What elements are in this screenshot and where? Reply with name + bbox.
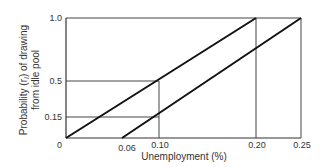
series-line-b bbox=[122, 18, 301, 138]
x-tick-0.06: 0.06 bbox=[118, 143, 136, 153]
y-axis-title-part2: ) of drawing bbox=[18, 25, 29, 77]
y-axis-title-part1: Probability (r bbox=[18, 78, 29, 135]
chart: 1.0 0.5 0.15 0 0.06 0.10 0.20 0.25 Unemp… bbox=[0, 0, 324, 167]
y-tick-0.15: 0.15 bbox=[44, 112, 62, 122]
reference-lines bbox=[66, 18, 301, 138]
y-axis-title: Probability (rI) of drawing from idle po… bbox=[18, 25, 41, 135]
axes bbox=[66, 18, 301, 138]
series-lines bbox=[66, 18, 301, 138]
x-tick-0.10: 0.10 bbox=[151, 140, 169, 150]
y-tick-1.0: 1.0 bbox=[49, 13, 62, 23]
y-axis-title-line2: from idle pool bbox=[30, 50, 41, 110]
x-axis-title: Unemployment (%) bbox=[141, 151, 227, 162]
y-tick-0.5: 0.5 bbox=[49, 76, 62, 86]
x-tick-0.25: 0.25 bbox=[293, 140, 311, 150]
series-line-a bbox=[66, 18, 256, 138]
svg-text:Probability (rI) of drawing: Probability (rI) of drawing bbox=[18, 25, 30, 135]
x-tick-0.20: 0.20 bbox=[248, 140, 266, 150]
y-tick-0: 0 bbox=[57, 140, 62, 150]
